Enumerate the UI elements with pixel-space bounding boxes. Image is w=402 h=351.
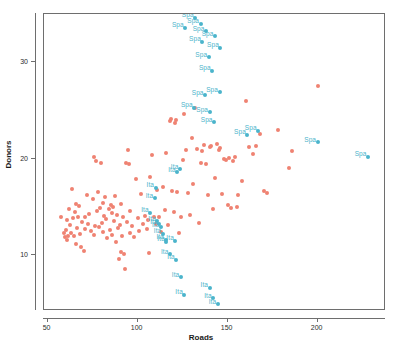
x-axis-line [43,318,385,319]
x-axis-title: Roads [0,333,402,342]
data-point [128,231,132,235]
data-point [181,158,185,162]
point-annotation-label: Ita [167,253,175,260]
data-point [100,221,104,225]
point-annotation-label: Spa [202,29,214,36]
point-annotation-label: Spa [172,21,184,28]
data-point [244,99,248,103]
data-point [77,204,81,208]
data-point [177,231,181,235]
data-point [172,210,176,214]
data-point [229,206,233,210]
data-point [74,242,78,246]
data-point [220,192,224,196]
data-point [316,84,320,88]
data-point [65,238,69,242]
data-point [218,146,222,150]
point-annotation-label: Ita [209,297,217,304]
point-annotation-label: Spa [304,135,316,142]
y-axis-tick [31,61,35,62]
point-annotation-label: Spa [189,35,201,42]
data-point [236,193,240,197]
data-point [118,223,122,227]
data-point [119,202,123,206]
data-point [101,230,105,234]
x-axis-tick [47,318,48,322]
data-point [240,179,244,183]
data-point [92,233,96,237]
data-point [184,148,188,152]
y-axis-tick [31,158,35,159]
data-point [104,217,108,221]
data-point [105,236,109,240]
x-axis-tick-label: 50 [43,324,51,331]
data-point [76,215,80,219]
data-point [121,215,125,219]
data-point [231,159,235,163]
data-point [117,257,121,261]
data-point [82,249,86,253]
data-point [174,118,178,122]
point-annotation-label: Spa [245,124,257,131]
data-point [166,223,170,227]
data-point [98,206,102,210]
data-point [290,149,294,153]
data-point [141,222,145,226]
point-annotation-label: Ita [201,281,209,288]
x-axis-tick-label: 150 [221,324,233,331]
point-annotation-label: Spa [195,50,207,57]
data-point [195,147,199,151]
data-point [101,201,105,205]
data-point [99,161,103,165]
data-point [94,159,98,163]
data-point [145,227,149,231]
data-point [59,215,63,219]
data-point [96,190,100,194]
data-point [97,225,101,229]
data-point [164,151,168,155]
data-point [170,189,174,193]
data-point [110,233,114,237]
data-point [113,194,117,198]
point-annotation-label: Spa [196,105,208,112]
data-point [265,191,269,195]
data-point [251,152,255,156]
data-point [65,218,69,222]
data-point [204,162,208,166]
y-axis-tick-label: 30 [20,58,28,65]
scatter-plot-figure: SpaSpaSpaSpaSpaSpaSpaSpaSpaSpaSpaSpaSpaS… [0,0,402,351]
data-point [68,223,72,227]
x-axis-tick [227,318,228,322]
data-point [114,240,118,244]
point-annotation-label: Spa [207,41,219,48]
data-point [128,209,132,213]
data-point [115,213,119,217]
point-annotation-label: Spa [355,150,367,157]
data-point [148,175,152,179]
data-point [150,153,154,157]
data-point [206,193,210,197]
point-annotation-label: Spa [192,88,204,95]
point-annotation-label: Ita [147,181,155,188]
data-point [73,210,77,214]
point-annotation-label: Ita [172,270,180,277]
x-axis-tick-label: 100 [131,324,143,331]
data-point [120,234,124,238]
data-point [287,166,291,170]
data-point [169,117,173,121]
point-annotation-label: Ita [157,235,165,242]
data-point [123,267,127,271]
data-point [130,224,134,228]
data-point [83,215,87,219]
data-point [182,112,186,116]
data-point [103,195,107,199]
x-axis-tick-label: 200 [311,324,323,331]
data-point [179,215,183,219]
data-point [247,145,251,149]
data-point [163,208,167,212]
data-point [136,216,140,220]
data-point [86,222,90,226]
data-point [112,219,116,223]
data-point [147,251,151,255]
data-point [83,227,87,231]
